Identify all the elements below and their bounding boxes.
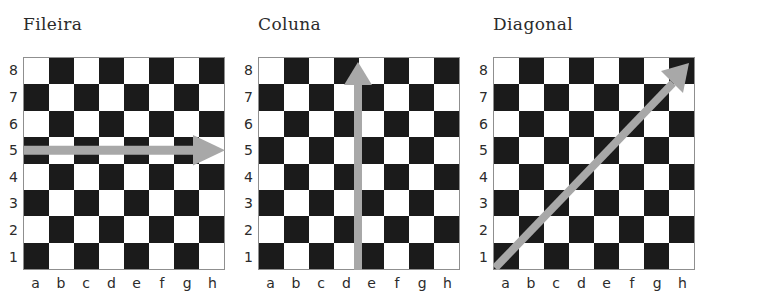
rank-labels: 8 7 6 5 4 3 2 1: [471, 57, 489, 270]
board-square: [384, 84, 409, 110]
board-square: [359, 216, 384, 242]
board-square: [124, 111, 149, 137]
rank-label: 5: [236, 137, 254, 164]
board-square: [24, 164, 49, 190]
board-square: [619, 137, 644, 163]
file-labels: a b c d e f g h: [23, 271, 225, 295]
board-square: [199, 164, 224, 190]
board-squares: [24, 58, 224, 269]
board-square: [434, 58, 459, 84]
board-square: [494, 190, 519, 216]
board-square: [24, 243, 49, 269]
board-square: [669, 216, 694, 242]
board-square: [434, 243, 459, 269]
rank-label: 8: [236, 57, 254, 84]
board-container: 8 7 6 5 4 3 2 1 a: [258, 57, 460, 270]
board-square: [669, 84, 694, 110]
board-square: [124, 58, 149, 84]
board-square: [124, 243, 149, 269]
board-square: [669, 243, 694, 269]
board-square: [309, 84, 334, 110]
board-square: [149, 243, 174, 269]
board-square: [644, 137, 669, 163]
panel-title: Diagonal: [493, 14, 573, 34]
board-square: [359, 58, 384, 84]
board-square: [259, 243, 284, 269]
board-square: [384, 137, 409, 163]
file-label: e: [594, 271, 619, 295]
board-square: [619, 84, 644, 110]
file-label: b: [48, 271, 73, 295]
board-square: [284, 111, 309, 137]
board-square: [284, 137, 309, 163]
board-square: [619, 243, 644, 269]
panel-fileira: Fileira 8 7 6 5 4 3 2 1: [0, 0, 235, 300]
board-square: [519, 243, 544, 269]
board-square: [619, 164, 644, 190]
rank-label: 8: [471, 57, 489, 84]
file-label: f: [384, 271, 409, 295]
board-square: [569, 216, 594, 242]
board-square: [124, 137, 149, 163]
rank-labels: 8 7 6 5 4 3 2 1: [236, 57, 254, 270]
board-square: [434, 84, 459, 110]
board-square: [569, 58, 594, 84]
board-square: [644, 84, 669, 110]
rank-label: 1: [1, 243, 19, 270]
board-square: [174, 164, 199, 190]
board-square: [99, 216, 124, 242]
board-square: [49, 243, 74, 269]
board-square: [334, 58, 359, 84]
file-label: c: [544, 271, 569, 295]
board-square: [644, 164, 669, 190]
board-square: [359, 243, 384, 269]
board-square: [334, 243, 359, 269]
board-square: [434, 137, 459, 163]
board-square: [74, 216, 99, 242]
board-square: [174, 137, 199, 163]
board-square: [434, 111, 459, 137]
board-container: 8 7 6 5 4 3 2 1 a: [493, 57, 695, 270]
rank-label: 7: [236, 84, 254, 111]
board-square: [569, 243, 594, 269]
board-square: [409, 84, 434, 110]
board-square: [99, 190, 124, 216]
board-square: [544, 216, 569, 242]
chessboard: [493, 57, 695, 270]
board-square: [199, 190, 224, 216]
board-square: [384, 190, 409, 216]
board-square: [434, 216, 459, 242]
board-square: [519, 216, 544, 242]
board-square: [309, 243, 334, 269]
file-label: g: [410, 271, 435, 295]
board-square: [384, 58, 409, 84]
board-square: [124, 164, 149, 190]
board-square: [124, 84, 149, 110]
board-square: [49, 58, 74, 84]
board-square: [494, 58, 519, 84]
board-square: [124, 190, 149, 216]
board-square: [669, 58, 694, 84]
file-label: c: [309, 271, 334, 295]
board-square: [359, 111, 384, 137]
board-square: [74, 111, 99, 137]
board-square: [199, 137, 224, 163]
board-square: [259, 137, 284, 163]
file-label: c: [74, 271, 99, 295]
board-square: [259, 111, 284, 137]
board-square: [494, 164, 519, 190]
board-square: [99, 84, 124, 110]
board-square: [569, 84, 594, 110]
board-square: [174, 243, 199, 269]
rank-label: 3: [1, 190, 19, 217]
board-square: [494, 111, 519, 137]
file-label: e: [124, 271, 149, 295]
board-square: [74, 164, 99, 190]
file-label: e: [359, 271, 384, 295]
board-square: [174, 111, 199, 137]
file-label: h: [200, 271, 225, 295]
board-square: [384, 243, 409, 269]
panel-title: Coluna: [258, 14, 321, 34]
board-square: [544, 137, 569, 163]
board-square: [544, 58, 569, 84]
